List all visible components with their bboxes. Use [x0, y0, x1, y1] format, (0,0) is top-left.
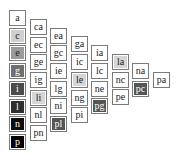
diagram-cell: ni [50, 98, 67, 114]
diagram-cell: ng [71, 90, 88, 106]
diagram-cell: ia [91, 45, 108, 61]
diagram-cell: a [9, 10, 26, 26]
diagram-cell: ne [91, 81, 108, 97]
diagram-cell: nc [112, 72, 129, 88]
diagram-cell: ge [30, 54, 47, 70]
diagram-cell: la [112, 54, 129, 70]
diagram-cell: pi [71, 107, 88, 123]
diagram-cell: pc [132, 81, 149, 97]
diagram-cell: ec [30, 37, 47, 53]
diagram-cell: pa [153, 72, 170, 88]
diagram-cell: lg [50, 81, 67, 97]
diagram-cell: n [9, 116, 26, 132]
diagram-cell: ic [71, 54, 88, 70]
diagram-cell: nl [30, 107, 47, 123]
diagram-cell: pn [30, 125, 47, 141]
diagram-cell: ca [30, 19, 47, 35]
diagram-cell: l [9, 99, 26, 115]
diagram-cell: lc [91, 63, 108, 79]
diagram-cell: li [30, 90, 47, 106]
diagram-cell: c [9, 28, 26, 44]
diagram-cell: pg [91, 98, 108, 114]
diagram-cell: g [9, 63, 26, 79]
diagram-cell: e [9, 45, 26, 61]
diagram-cell: ig [30, 72, 47, 88]
diagram-cell: i [9, 81, 26, 97]
diagram-cell: pe [112, 89, 129, 105]
diagram-cell: ea [50, 28, 67, 44]
diagram-cell: ie [50, 63, 67, 79]
diagram-cell: pl [50, 116, 67, 132]
diagram-cell: ga [71, 36, 88, 52]
diagram-cell: na [132, 63, 149, 79]
staircase-diagram: acegilnpcaecgeiglinlpneagcielgniplgaicle… [0, 0, 180, 155]
diagram-cell: p [9, 134, 26, 150]
diagram-cell: gc [50, 45, 67, 61]
diagram-cell: le [71, 72, 88, 88]
